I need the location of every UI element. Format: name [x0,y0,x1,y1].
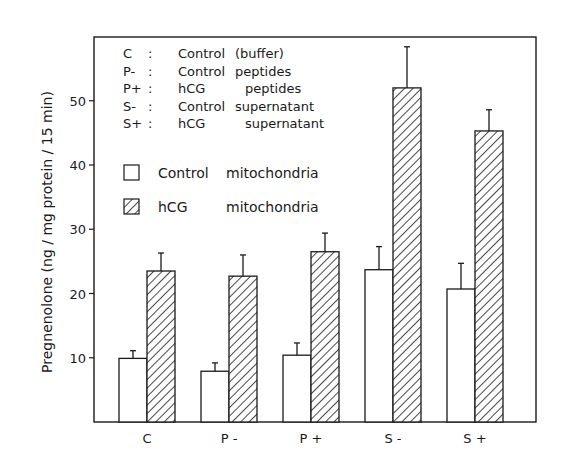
abbrev-desc-a: Control [178,99,225,114]
bar-control-1 [201,371,229,422]
y-axis-ticks: 1020304050 [69,94,94,366]
abbrev-key: C [123,46,132,61]
y-tick-label: 40 [69,158,86,173]
abbrev-sep: : [148,64,152,79]
bar-control-3 [365,270,393,422]
y-tick-label: 30 [69,222,86,237]
abbrev-desc-b: (buffer) [235,46,284,61]
y-tick-label: 50 [69,94,86,109]
x-tick-label: C [142,431,151,446]
bar-hcg-2 [311,252,339,422]
bar-control-2 [283,355,311,422]
abbrev-key: P- [123,64,136,79]
bar-control-4 [447,289,475,422]
abbrev-desc-a: Control [178,46,225,61]
abbrev-key: S+ [123,116,142,131]
abbreviation-key: C:Control(buffer)P-:ControlpeptidesP+:hC… [123,46,324,131]
abbrev-desc-a: hCG [178,116,205,131]
abbrev-sep: : [148,81,152,96]
y-axis-label: Pregnenolone (ng / mg protein / 15 min) [39,91,55,373]
bar-chart: Pregnenolone (ng / mg protein / 15 min) … [0,0,567,468]
x-tick-label: S + [463,431,486,446]
bar-hcg-3 [393,88,421,422]
legend-label-control-b: mitochondria [226,165,319,181]
bar-hcg-1 [229,276,257,422]
legend-label-control-a: Control [158,165,209,181]
bar-control-0 [119,358,147,422]
abbrev-desc-a: Control [178,64,225,79]
x-tick-label: P + [300,431,323,446]
legend-swatch-hcg [124,199,139,214]
bar-hcg-4 [475,131,503,422]
legend-label-hcg-b: mitochondria [226,199,319,215]
abbrev-sep: : [148,99,152,114]
x-axis-labels: CP -P +S -S + [142,431,486,446]
x-tick-label: S - [384,431,401,446]
abbrev-desc-b: supernatant [235,99,314,114]
legend: Control mitochondria hCG mitochondria [124,165,319,215]
y-tick-label: 20 [69,287,86,302]
abbrev-sep: : [148,46,152,61]
abbrev-desc-a: hCG [178,81,205,96]
abbrev-desc-b: peptides [235,64,291,79]
abbrev-desc-b: supernatant [245,116,324,131]
abbrev-sep: : [148,116,152,131]
abbrev-key: S- [123,99,136,114]
bar-hcg-0 [147,271,175,422]
x-tick-label: P - [221,431,238,446]
y-tick-label: 10 [69,351,86,366]
abbrev-key: P+ [123,81,142,96]
legend-label-hcg-a: hCG [158,199,188,215]
abbrev-desc-b: peptides [245,81,301,96]
legend-swatch-control [124,165,139,180]
